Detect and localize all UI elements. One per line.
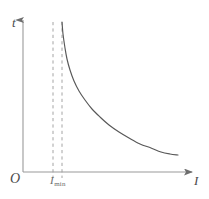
physics-graph-figure: t I O Imin [0, 0, 209, 199]
threshold-subscript: min [54, 180, 66, 188]
decay-curve [62, 22, 178, 155]
y-axis-label: t [12, 16, 16, 29]
threshold-current-label: Imin [50, 175, 65, 186]
graph-canvas [0, 0, 209, 199]
origin-label: O [10, 172, 20, 186]
x-axis-label: I [194, 174, 198, 187]
